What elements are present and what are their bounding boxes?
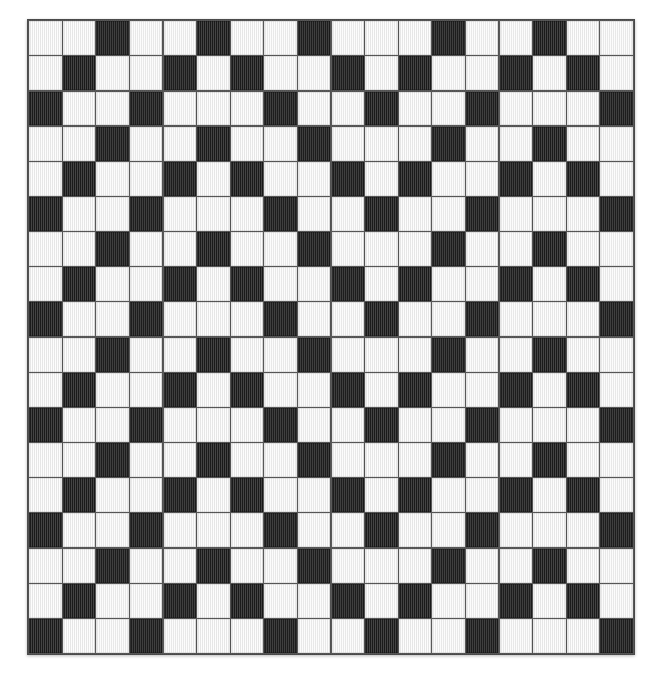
checker-cell — [164, 21, 196, 55]
checker-cell — [432, 92, 464, 126]
checker-cell — [29, 513, 61, 547]
checker-cell — [29, 267, 61, 301]
checker-cell — [130, 56, 162, 90]
checker-cell — [96, 584, 128, 618]
checker-cell — [500, 584, 532, 618]
checker-cell — [264, 619, 296, 653]
checker-cell — [63, 338, 95, 372]
checker-cell — [231, 549, 263, 583]
checker-cell — [231, 56, 263, 90]
checker-cell — [130, 92, 162, 126]
checker-cell — [164, 584, 196, 618]
checker-cell — [399, 197, 431, 231]
checker-cell — [466, 162, 498, 196]
checker-cell — [500, 338, 532, 372]
checker-cell — [231, 267, 263, 301]
checker-cell — [298, 302, 330, 336]
checker-cell — [130, 584, 162, 618]
checker-cell — [197, 302, 229, 336]
checker-cell — [533, 197, 565, 231]
checker-cell — [399, 408, 431, 442]
checker-cell — [399, 21, 431, 55]
checker-cell — [600, 338, 632, 372]
checker-cell — [500, 513, 532, 547]
checker-cell — [264, 373, 296, 407]
checker-cell — [96, 21, 128, 55]
checker-cell — [264, 584, 296, 618]
checker-cell — [197, 513, 229, 547]
checker-cell — [332, 302, 364, 336]
checker-cell — [264, 92, 296, 126]
checker-cell — [600, 478, 632, 512]
checker-cell — [164, 56, 196, 90]
checker-cell — [567, 162, 599, 196]
checker-cell — [600, 267, 632, 301]
checker-cell — [466, 127, 498, 161]
checker-cell — [298, 21, 330, 55]
checker-cell — [264, 443, 296, 477]
checker-cell — [231, 302, 263, 336]
checker-cell — [466, 408, 498, 442]
checker-cell — [466, 232, 498, 266]
checker-cell — [600, 373, 632, 407]
checker-cell — [567, 619, 599, 653]
checker-cell — [432, 408, 464, 442]
checker-cell — [164, 127, 196, 161]
checker-cell — [399, 232, 431, 266]
checker-cell — [164, 619, 196, 653]
checker-cell — [365, 21, 397, 55]
checker-cell — [164, 197, 196, 231]
checker-cell — [164, 338, 196, 372]
checker-cell — [264, 549, 296, 583]
checker-cell — [466, 267, 498, 301]
checker-cell — [533, 549, 565, 583]
checker-cell — [399, 549, 431, 583]
checker-cell — [264, 478, 296, 512]
checker-cell — [298, 443, 330, 477]
checker-cell — [298, 338, 330, 372]
checker-cell — [500, 443, 532, 477]
checker-cell — [164, 162, 196, 196]
checker-cell — [63, 443, 95, 477]
checker-cell — [264, 302, 296, 336]
checker-cell — [63, 513, 95, 547]
checker-cell — [466, 197, 498, 231]
checker-cell — [96, 443, 128, 477]
checker-cell — [298, 56, 330, 90]
checker-cell — [365, 584, 397, 618]
checker-cell — [298, 127, 330, 161]
checker-cell — [197, 549, 229, 583]
checker-cell — [29, 373, 61, 407]
checker-cell — [130, 478, 162, 512]
checker-cell — [231, 443, 263, 477]
checker-cell — [432, 584, 464, 618]
checker-cell — [432, 232, 464, 266]
checker-cell — [567, 478, 599, 512]
checker-cell — [63, 267, 95, 301]
checker-cell — [96, 56, 128, 90]
checker-cell — [130, 619, 162, 653]
checker-cell — [29, 302, 61, 336]
checker-cell — [130, 232, 162, 266]
checker-cell — [164, 408, 196, 442]
checker-cell — [432, 267, 464, 301]
checker-cell — [63, 619, 95, 653]
checker-cell — [298, 92, 330, 126]
checker-cell — [130, 302, 162, 336]
checker-cell — [264, 127, 296, 161]
checker-cell — [231, 338, 263, 372]
checker-cell — [365, 478, 397, 512]
checker-cell — [533, 584, 565, 618]
checker-cell — [298, 197, 330, 231]
checker-cell — [298, 513, 330, 547]
checker-cell — [96, 92, 128, 126]
checker-cell — [264, 408, 296, 442]
checker-cell — [600, 302, 632, 336]
checker-cell — [63, 232, 95, 266]
checker-cell — [600, 408, 632, 442]
checker-cell — [63, 549, 95, 583]
checker-cell — [399, 373, 431, 407]
checker-cell — [332, 408, 364, 442]
checker-cell — [332, 373, 364, 407]
checker-cell — [164, 92, 196, 126]
